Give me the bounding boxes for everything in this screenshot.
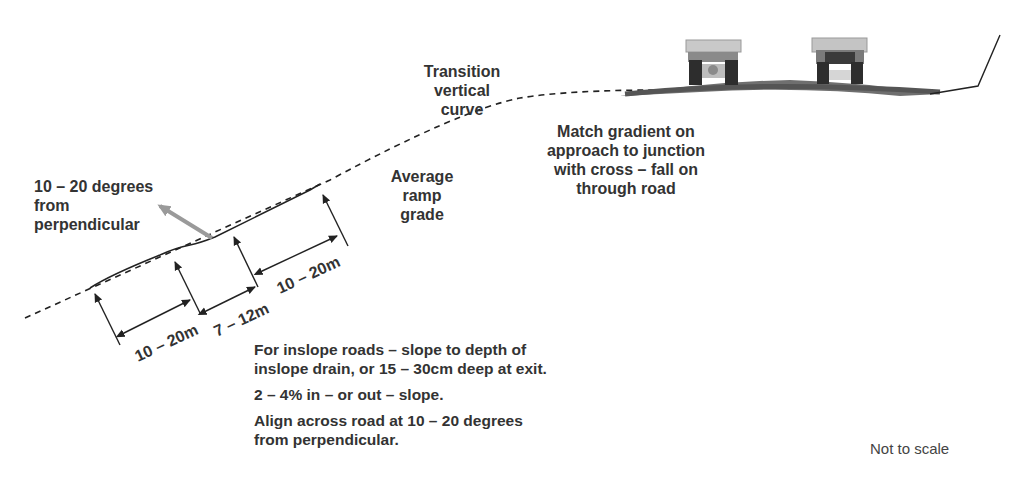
dimension-label: 10 – 20m [274, 253, 342, 297]
match-gradient-label: Match gradient on approach to junction w… [535, 122, 717, 198]
label-line: Match gradient on [535, 122, 717, 141]
dimension-label: 7 – 12m [211, 299, 271, 339]
haul-truck-icon [686, 40, 741, 85]
embankment-line [930, 35, 1000, 94]
label-line: from [34, 196, 153, 215]
note-line: For inslope roads – slope to depth of [254, 341, 526, 358]
note-alignment: Align across road at 10 – 20 degrees fro… [254, 411, 547, 449]
note-line: Align across road at 10 – 20 degrees [254, 412, 523, 429]
not-to-scale-label: Not to scale [870, 440, 949, 457]
label-line: Average [382, 167, 462, 186]
haul-truck-icon [812, 38, 867, 84]
label-line: ramp [382, 186, 462, 205]
label-line: approach to junction [535, 141, 717, 160]
label-line: through road [535, 179, 717, 198]
label-line: perpendicular [34, 215, 153, 234]
label-line: 10 – 20 degrees [34, 177, 153, 196]
label-line: grade [382, 205, 462, 224]
note-line: from perpendicular. [254, 431, 399, 448]
note-line: 2 – 4% in – or out – slope. [254, 386, 444, 403]
transition-curve-label: Transition vertical curve [398, 62, 526, 119]
design-notes: For inslope roads – slope to depth of in… [254, 340, 547, 456]
note-inslope: For inslope roads – slope to depth of in… [254, 340, 547, 378]
dimension-label: 10 – 20m [132, 321, 200, 365]
label-line: Transition vertical [398, 62, 526, 100]
note-crossfall: 2 – 4% in – or out – slope. [254, 385, 547, 404]
average-ramp-grade-label: Average ramp grade [382, 167, 462, 224]
label-line: with cross – fall on [535, 160, 717, 179]
degrees-label: 10 – 20 degrees from perpendicular [34, 177, 153, 234]
label-line: curve [398, 100, 526, 119]
note-line: inslope drain, or 15 – 30cm deep at exit… [254, 360, 547, 377]
perpendicular-arrow [160, 206, 212, 238]
